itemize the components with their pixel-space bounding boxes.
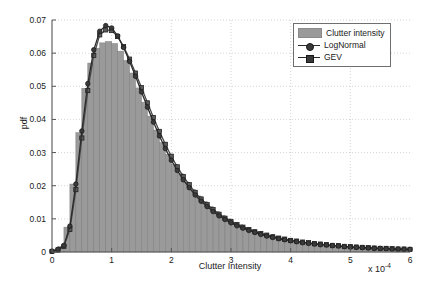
y-tick-label: 0.06 xyxy=(16,48,46,58)
circle-marker-icon xyxy=(306,43,314,51)
y-tick-label: 0.04 xyxy=(16,114,46,124)
legend-item-gev: GEV xyxy=(298,51,385,63)
x-axis-exponent-base: x 10 xyxy=(368,264,385,274)
y-tick-label: 0.03 xyxy=(16,148,46,158)
x-tick-label: 0 xyxy=(44,255,60,265)
legend-label-clutter-intensity: Clutter intensity xyxy=(326,28,385,38)
x-tick-label: 4 xyxy=(283,255,299,265)
histogram-swatch-icon xyxy=(298,28,322,38)
x-axis-exponent-power: -4 xyxy=(385,262,391,269)
x-tick-label: 5 xyxy=(342,255,358,265)
gev-line-icon xyxy=(298,53,320,61)
square-marker-icon xyxy=(306,55,314,63)
x-tick-label: 1 xyxy=(104,255,120,265)
y-tick-label: 0.01 xyxy=(16,214,46,224)
chart-legend: Clutter intensity LogNormal GEV xyxy=(293,23,391,67)
legend-item-clutter-intensity: Clutter intensity xyxy=(298,27,385,39)
x-tick-label: 3 xyxy=(223,255,239,265)
y-tick-label: 0.05 xyxy=(16,81,46,91)
x-tick-label: 6 xyxy=(402,255,418,265)
legend-label-lognormal: LogNormal xyxy=(324,40,366,50)
lognormal-line-icon xyxy=(298,41,320,49)
y-tick-label: 0.02 xyxy=(16,181,46,191)
legend-label-gev: GEV xyxy=(324,52,342,62)
chart-figure: pdf Clutter Intensity x 10-4 00.010.020.… xyxy=(0,0,421,292)
x-axis-exponent: x 10-4 xyxy=(368,262,391,274)
y-tick-label: 0 xyxy=(16,247,46,257)
y-tick-label: 0.07 xyxy=(16,15,46,25)
legend-item-lognormal: LogNormal xyxy=(298,39,385,51)
x-tick-label: 2 xyxy=(163,255,179,265)
